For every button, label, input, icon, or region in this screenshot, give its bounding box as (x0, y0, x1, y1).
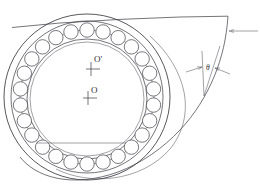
angle-leg-left (202, 51, 204, 96)
angle-arrow-left (186, 67, 202, 72)
rolling-element-ball (142, 114, 156, 128)
rolling-element-ball (96, 25, 110, 39)
leader-line-group (229, 30, 258, 33)
rolling-element-ball (146, 98, 160, 112)
angle-arrow-right (215, 68, 230, 74)
rolling-element-ball (64, 155, 78, 169)
bore-circle (30, 42, 144, 156)
rolling-element-ball (35, 40, 49, 54)
rolling-element-ball (80, 157, 94, 171)
rolling-element-ball (17, 66, 31, 80)
bearing-rings-group (4, 14, 170, 180)
rolling-element-ball (64, 25, 78, 39)
rolling-element-ball (135, 52, 149, 66)
rolling-element-ball (124, 140, 138, 154)
rolling-element-ball (135, 128, 149, 142)
outer-race-circle (11, 21, 163, 173)
rolling-elements-group (13, 23, 160, 171)
rolling-element-ball (124, 40, 138, 54)
label-center-outer: O' (94, 54, 102, 64)
rolling-element-ball (49, 149, 63, 163)
rolling-element-ball (96, 155, 110, 169)
rolling-element-ball (142, 66, 156, 80)
rolling-element-ball (111, 30, 125, 44)
bearing-eccentricity-figure: O' O θ (0, 0, 260, 188)
center-mark-outer-group (86, 62, 100, 76)
rolling-element-ball (13, 98, 27, 112)
label-center-inner: O (91, 85, 98, 95)
rolling-element-ball (35, 140, 49, 154)
rolling-element-ball (25, 128, 39, 142)
technical-drawing-canvas: O' O θ (0, 0, 260, 188)
rolling-element-ball (111, 149, 125, 163)
label-angle-theta: θ (206, 63, 210, 72)
rolling-element-ball (80, 23, 94, 37)
rolling-element-ball (13, 82, 27, 96)
rolling-element-ball (146, 82, 160, 96)
rolling-element-ball (25, 52, 39, 66)
rolling-element-ball (17, 114, 31, 128)
rolling-element-ball (49, 30, 63, 44)
